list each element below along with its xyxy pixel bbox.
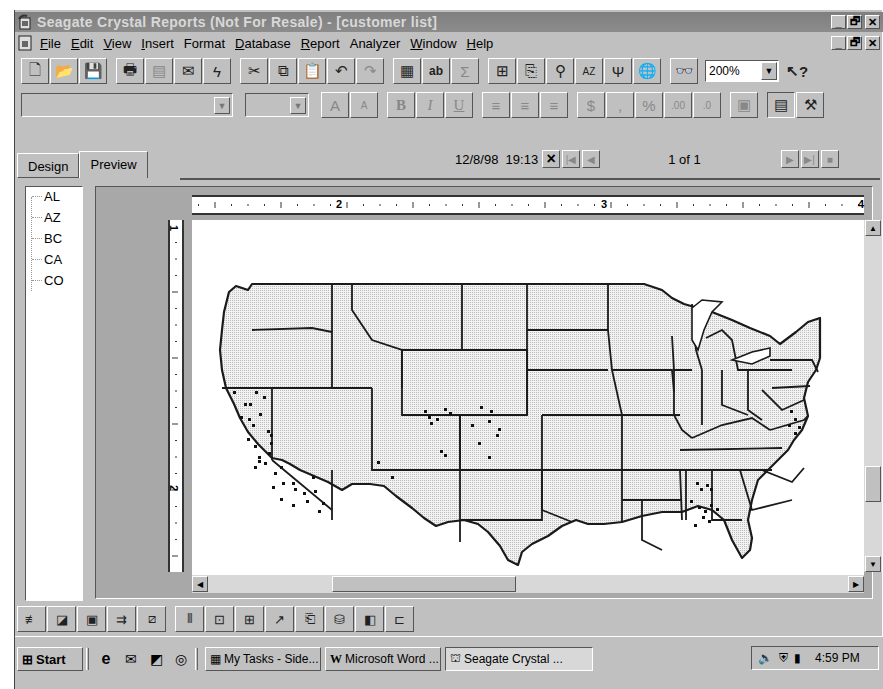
insert-special-field-button[interactable]: ◪ xyxy=(47,606,76,632)
menu-format[interactable]: Format xyxy=(184,36,225,51)
menu-database[interactable]: Database xyxy=(235,36,291,51)
tab-design[interactable]: Design xyxy=(17,153,79,178)
menu-insert[interactable]: Insert xyxy=(141,36,174,51)
refresh-button[interactable]: ϟ xyxy=(203,58,231,84)
task-microsoft-word[interactable]: W Microsoft Word ... xyxy=(325,647,441,671)
task-my-tasks[interactable]: ▦ My Tasks - Side... xyxy=(205,647,321,671)
insert-database-button[interactable]: ⛁ xyxy=(325,606,354,632)
undo-button[interactable]: ↶ xyxy=(327,58,355,84)
insert-subreport-button[interactable]: ⎘ xyxy=(517,58,545,84)
align-left-button[interactable]: ≡ xyxy=(482,92,510,118)
close-view-button[interactable]: × xyxy=(542,150,560,168)
battery-icon[interactable]: ▮ xyxy=(794,651,801,665)
paste-button[interactable]: 📋 xyxy=(298,58,326,84)
menu-file[interactable]: File xyxy=(40,36,61,51)
menu-report[interactable]: Report xyxy=(301,36,340,51)
decrease-font-button[interactable]: A xyxy=(350,92,378,118)
insert-formula-button[interactable]: ≢ xyxy=(17,606,46,632)
show-desktop-icon[interactable]: ◩ xyxy=(145,648,167,670)
document-window-icon[interactable] xyxy=(18,35,32,51)
thousands-separator-button[interactable]: , xyxy=(606,92,634,118)
start-button[interactable]: ⊞ Start xyxy=(17,647,83,671)
suppress-button[interactable]: ▣ xyxy=(730,92,758,118)
select-expert-button[interactable]: Ψ xyxy=(604,58,632,84)
map-expert-button[interactable]: 🌐 xyxy=(633,58,661,84)
restore-button[interactable]: 🗗 xyxy=(847,15,862,29)
insert-database-field-button[interactable]: ▦ xyxy=(393,58,421,84)
insert-report-button[interactable]: ⎗ xyxy=(295,606,324,632)
context-help-button[interactable]: ↖? xyxy=(783,58,811,84)
first-page-button[interactable]: |◀ xyxy=(562,150,580,168)
horizontal-scrollbar[interactable]: ◀ ▶ xyxy=(192,575,864,593)
bold-button[interactable]: B xyxy=(387,92,415,118)
outlook-express-icon[interactable]: ✉ xyxy=(120,648,142,670)
cut-button[interactable]: ✂ xyxy=(240,58,268,84)
increase-decimals-button[interactable]: .00 xyxy=(664,92,692,118)
antivirus-icon[interactable]: ⛨ xyxy=(779,651,788,665)
taskbar-grip[interactable] xyxy=(86,648,89,670)
insert-grid-button[interactable]: ⊞ xyxy=(235,606,264,632)
chevron-down-icon[interactable]: ▼ xyxy=(290,97,306,114)
title-bar[interactable]: Seagate Crystal Reports (Not For Resale)… xyxy=(15,12,883,32)
menu-analyzer[interactable]: Analyzer xyxy=(350,36,401,51)
zoom-dropdown[interactable]: 200% ▼ xyxy=(705,60,779,82)
align-right-button[interactable]: ≡ xyxy=(540,92,568,118)
menu-window[interactable]: Window xyxy=(410,36,456,51)
vertical-scrollbar[interactable]: ▲ ▼ xyxy=(864,220,882,572)
insert-summary-button[interactable]: Σ xyxy=(451,58,479,84)
chevron-down-icon[interactable]: ▼ xyxy=(214,97,230,114)
italic-button[interactable]: I xyxy=(416,92,444,118)
print-button[interactable]: 🖶 xyxy=(116,58,144,84)
vertical-scroll-thumb[interactable] xyxy=(865,466,881,502)
scroll-right-button[interactable]: ▶ xyxy=(848,576,864,592)
copy-button[interactable]: ⧉ xyxy=(269,58,297,84)
stop-button[interactable]: ■ xyxy=(821,150,839,168)
splitter[interactable] xyxy=(85,186,93,601)
clock[interactable]: 4:59 PM xyxy=(815,651,860,665)
horizontal-scroll-thumb[interactable] xyxy=(332,576,516,592)
insert-box-button[interactable]: ⧄ xyxy=(137,606,166,632)
export-button[interactable]: ✉ xyxy=(174,58,202,84)
channels-icon[interactable]: ◎ xyxy=(170,648,192,670)
insert-chart-button[interactable]: ⚲ xyxy=(546,58,574,84)
minimize-button[interactable]: _ xyxy=(831,15,846,29)
find-button[interactable]: 👓 xyxy=(670,58,698,84)
tree-item-ca[interactable]: CA xyxy=(32,252,62,267)
last-page-button[interactable]: ▶| xyxy=(801,150,819,168)
font-name-dropdown[interactable]: ▼ xyxy=(21,93,233,117)
print-preview-button[interactable]: ▤ xyxy=(145,58,173,84)
speaker-icon[interactable]: 🔈 xyxy=(758,651,773,665)
crystal-reports-app-icon[interactable] xyxy=(18,14,32,30)
prev-page-button[interactable]: ◀ xyxy=(582,150,600,168)
tree-item-co[interactable]: CO xyxy=(32,273,64,288)
tree-item-bc[interactable]: BC xyxy=(32,231,62,246)
options-button[interactable]: ⚒ xyxy=(796,92,824,118)
sort-order-button[interactable]: AZ xyxy=(575,58,603,84)
open-button[interactable]: 📂 xyxy=(50,58,78,84)
font-size-dropdown[interactable]: ▼ xyxy=(245,93,309,117)
underline-button[interactable]: U xyxy=(445,92,473,118)
insert-picture-button[interactable]: ▣ xyxy=(77,606,106,632)
scroll-left-button[interactable]: ◀ xyxy=(192,576,208,592)
close-button[interactable]: ✕ xyxy=(865,15,880,29)
tree-item-al[interactable]: AL xyxy=(32,189,60,204)
toggle-group-tree-button[interactable]: ▤ xyxy=(767,92,795,118)
menu-help[interactable]: Help xyxy=(467,36,494,51)
doc-close-button[interactable]: ✕ xyxy=(865,36,880,50)
currency-button[interactable]: $ xyxy=(577,92,605,118)
scroll-up-button[interactable]: ▲ xyxy=(865,220,881,236)
internet-explorer-icon[interactable]: e xyxy=(95,648,117,670)
next-page-button[interactable]: ▶ xyxy=(781,150,799,168)
insert-ole-button[interactable]: ⊡ xyxy=(205,606,234,632)
menu-view[interactable]: View xyxy=(103,36,131,51)
insert-chart-button-2[interactable]: ↗ xyxy=(265,606,294,632)
insert-template-button[interactable]: ◧ xyxy=(355,606,384,632)
chevron-down-icon[interactable]: ▼ xyxy=(761,62,777,80)
doc-minimize-button[interactable]: _ xyxy=(831,36,846,50)
decrease-decimals-button[interactable]: .0 xyxy=(693,92,721,118)
task-seagate-crystal[interactable]: ⛫ Seagate Crystal ... xyxy=(445,647,593,671)
align-center-button[interactable]: ≡ xyxy=(511,92,539,118)
doc-restore-button[interactable]: 🗗 xyxy=(847,36,862,50)
redo-button[interactable]: ↷ xyxy=(356,58,384,84)
increase-font-button[interactable]: A xyxy=(321,92,349,118)
